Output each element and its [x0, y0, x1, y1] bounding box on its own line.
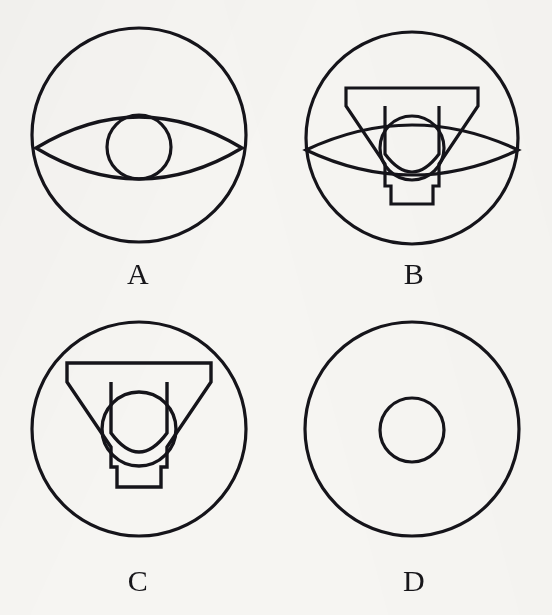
outer-circle: [305, 322, 519, 536]
inner-circle: [102, 392, 176, 466]
panel-d-figure: [276, 311, 552, 573]
lens-eye: [36, 117, 242, 179]
panel-c-figure: [0, 311, 276, 573]
y-trophy: [67, 363, 211, 487]
panel-label-b: B: [276, 256, 552, 292]
y-trophy: [346, 88, 478, 204]
outer-circle: [32, 322, 246, 536]
panel-a-figure: [0, 4, 276, 266]
panel-label-d: D: [276, 563, 552, 599]
lens-eye: [306, 125, 518, 175]
panel-d[interactable]: D: [276, 311, 552, 615]
panel-b[interactable]: B: [276, 4, 552, 311]
panel-label-c: C: [0, 563, 276, 599]
panel-b-figure: [276, 4, 552, 266]
panel-c[interactable]: C: [0, 311, 276, 615]
inner-circle: [380, 398, 444, 462]
figure-sheet: A B C D: [0, 0, 552, 615]
inner-circle: [107, 115, 171, 179]
panel-a[interactable]: A: [0, 4, 276, 311]
panel-label-a: A: [0, 256, 276, 292]
